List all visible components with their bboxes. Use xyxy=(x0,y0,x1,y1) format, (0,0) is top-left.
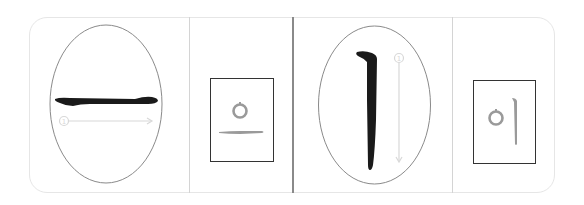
lesson-2-example-panel xyxy=(474,81,536,164)
example-box xyxy=(474,81,536,164)
stroke-order-marker: 1 xyxy=(60,117,69,127)
example-ieung xyxy=(234,105,247,118)
example-eu-stroke xyxy=(219,131,264,134)
lesson-1-stroke-panel: 1 xyxy=(50,25,162,183)
stroke-number-label: 1 xyxy=(397,55,401,63)
vowel-eu-stroke xyxy=(55,97,158,106)
example-i-stroke xyxy=(512,98,517,145)
example-box xyxy=(211,79,274,162)
vowel-i-stroke xyxy=(356,51,377,170)
stroke-order-marker: 1 xyxy=(395,54,404,64)
example-ieung xyxy=(490,112,503,125)
lesson-1-example-panel xyxy=(211,79,274,162)
worksheet-drawing: 1 1 xyxy=(0,0,584,205)
stroke-number-label: 1 xyxy=(62,118,66,126)
lesson-2-stroke-panel: 1 xyxy=(319,26,431,184)
